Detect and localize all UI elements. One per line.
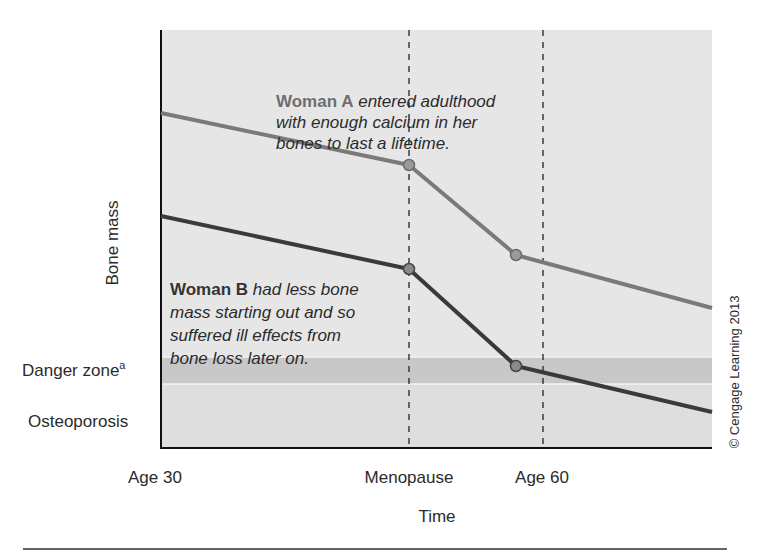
x-axis-label: Time xyxy=(418,507,455,526)
woman-a-annotation: Woman A entered adulthood xyxy=(276,92,496,111)
woman-a-annotation-line3: bones to last a lifetime. xyxy=(276,134,450,153)
woman-b-point-post xyxy=(511,361,522,372)
woman-a-point-menopause xyxy=(404,160,415,171)
woman-b-annotation: Woman B had less bone xyxy=(170,280,359,299)
bone-mass-chart: Woman A entered adulthood with enough ca… xyxy=(0,0,766,558)
woman-a-annotation-line2: with enough calcium in her xyxy=(276,113,479,132)
woman-b-annotation-line3: suffered ill effects from xyxy=(170,326,341,345)
copyright-credit: © Cengage Learning 2013 xyxy=(727,296,742,449)
woman-b-annotation-line4: bone loss later on. xyxy=(170,349,309,368)
woman-a-point-post xyxy=(511,250,522,261)
osteoporosis-label: Osteoporosis xyxy=(28,412,128,431)
danger-zone-label: Danger zonea xyxy=(22,359,126,380)
tick-age-60: Age 60 xyxy=(515,468,569,487)
woman-b-annotation-line2: mass starting out and so xyxy=(170,303,355,322)
woman-b-point-menopause xyxy=(404,264,415,275)
tick-menopause: Menopause xyxy=(365,468,454,487)
tick-age-30: Age 30 xyxy=(128,468,182,487)
y-axis-label: Bone mass xyxy=(103,200,122,285)
